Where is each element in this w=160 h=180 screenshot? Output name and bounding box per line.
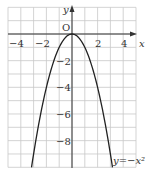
y-axis-label: y [62,4,69,15]
x-tick-label: −2 [35,38,50,49]
axes [8,5,137,168]
y-tick-label: −8 [56,136,71,147]
axis-labels: x y O −4 −2 2 4 −2 −4 −6 −8 y=−x² [9,4,145,166]
curve-equation-label: y=−x² [112,155,145,166]
x-tick-label: 4 [121,38,127,49]
parabola-plot: x y O −4 −2 2 4 −2 −4 −6 −8 y=−x² [0,0,160,180]
x-tick-label: 2 [95,38,101,49]
x-axis-label: x [139,38,145,49]
x-tick-label: −4 [9,38,24,49]
origin-label: O [62,22,70,33]
y-tick-label: −6 [56,109,71,120]
y-axis-arrow-icon [70,5,75,12]
y-tick-label: −4 [56,82,71,93]
y-tick-label: −2 [56,56,71,67]
